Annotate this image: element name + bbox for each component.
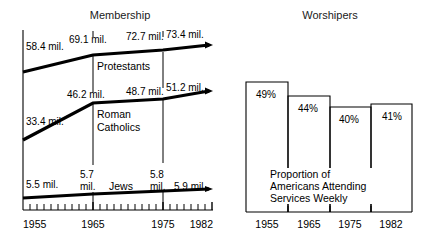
- jews-value-1955: 5.5 mil.: [26, 179, 58, 190]
- worshipers-caption-line3: Services Weekly: [270, 192, 348, 204]
- roman-catholics-line-endcap: [205, 88, 213, 95]
- worshipers-xtick-1975: 1975: [338, 218, 362, 230]
- roman-catholics-value-1955: 33.4 mil.: [26, 116, 64, 127]
- membership-x-ticks: [30, 202, 212, 210]
- worshipers-value-1965: 44%: [298, 103, 318, 114]
- chart-canvas: Membership: [0, 0, 425, 239]
- worshipers-x-ticks: [288, 206, 371, 212]
- worshipers-xtick-1965: 1965: [297, 218, 321, 230]
- jews-value-1975-line2: mil.: [150, 181, 166, 192]
- worshipers-caption-line2: Americans Attending: [270, 180, 366, 192]
- roman-catholics-value-1975: 48.7 mil.: [126, 86, 164, 97]
- protestants-series-label: Protestants: [97, 60, 150, 72]
- worshipers-value-1955: 49%: [256, 89, 276, 100]
- roman-catholics-series-label-line2: Catholics: [97, 121, 140, 133]
- membership-title: Membership: [90, 9, 151, 21]
- membership-panel: Membership: [23, 9, 213, 230]
- jews-series-label: Jews: [109, 180, 133, 192]
- protestants-line-endcap: [205, 42, 213, 49]
- roman-catholics-value-1982: 51.2 mil.: [166, 82, 204, 93]
- protestants-value-1965: 69.1 mil.: [69, 34, 107, 45]
- roman-catholics-value-1965: 46.2 mil.: [67, 89, 105, 100]
- roman-catholics-series-label-line1: Roman: [97, 108, 131, 120]
- jews-value-1982: 5.9 mil.: [174, 181, 206, 192]
- figure-root: Membership: [0, 0, 425, 239]
- protestants-value-1982: 73.4 mil.: [166, 29, 204, 40]
- worshipers-value-1982: 41%: [382, 111, 402, 122]
- jews-value-1975-line1: 5.8: [150, 169, 164, 180]
- membership-xtick-1982: 1982: [190, 218, 214, 230]
- membership-xtick-1955: 1955: [23, 218, 47, 230]
- jews-value-1965-line1: 5.7: [80, 169, 94, 180]
- worshipers-title: Worshipers: [302, 9, 358, 21]
- protestants-value-1955: 58.4 mil.: [26, 41, 64, 52]
- membership-xtick-1975: 1975: [151, 218, 175, 230]
- worshipers-xtick-1982: 1982: [379, 218, 403, 230]
- membership-xtick-1965: 1965: [81, 218, 105, 230]
- worshipers-value-1975: 40%: [339, 114, 359, 125]
- protestants-value-1975: 72.7 mil.: [126, 31, 164, 42]
- worshipers-xtick-1955: 1955: [255, 218, 279, 230]
- worshipers-panel: Worshipers 49% 44% 40% 41%: [246, 9, 412, 230]
- jews-value-1965-line2: mil.: [80, 181, 96, 192]
- worshipers-caption-line1: Proportion of: [270, 168, 330, 180]
